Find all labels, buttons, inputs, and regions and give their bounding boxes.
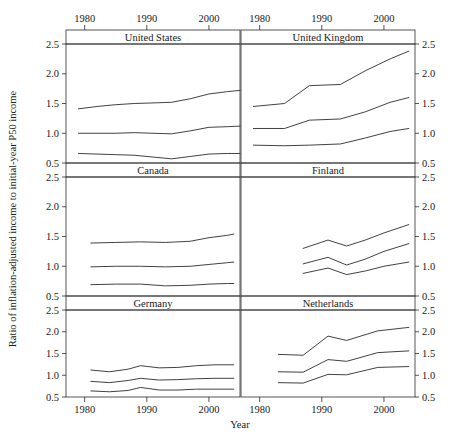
y-tick-label: 0.5 xyxy=(422,392,435,403)
y-tick-label: 1.5 xyxy=(46,348,59,359)
y-tick-label: 2.0 xyxy=(422,326,435,337)
panel-strip-label: Canada xyxy=(137,165,169,176)
y-tick-label: 0.5 xyxy=(46,291,59,302)
panel-strip-label: Finland xyxy=(312,165,345,176)
x-tick-label: 1980 xyxy=(249,404,270,415)
x-tick-label: 2000 xyxy=(198,13,219,24)
y-tick-label: 2.0 xyxy=(46,326,59,337)
x-tick-label: 1990 xyxy=(311,404,332,415)
y-tick-label: 1.0 xyxy=(46,261,59,272)
x-tick-label: 1980 xyxy=(249,13,270,24)
y-tick-label: 0.5 xyxy=(46,158,59,169)
y-tick-label: 2.5 xyxy=(422,39,435,50)
y-tick-label: 1.0 xyxy=(422,261,435,272)
y-tick-label: 1.5 xyxy=(422,348,435,359)
y-tick-label: 2.0 xyxy=(46,201,59,212)
y-tick-label: 1.5 xyxy=(46,98,59,109)
x-tick-label: 2000 xyxy=(198,404,219,415)
x-tick-label: 1980 xyxy=(74,13,95,24)
x-tick-label: 1980 xyxy=(74,404,95,415)
y-tick-label: 0.5 xyxy=(422,291,435,302)
y-tick-label: 1.5 xyxy=(422,98,435,109)
y-tick-label: 1.0 xyxy=(46,128,59,139)
y-tick-label: 2.0 xyxy=(46,68,59,79)
y-tick-label: 2.5 xyxy=(422,172,435,183)
y-tick-label: 2.5 xyxy=(422,305,435,316)
y-tick-label: 2.0 xyxy=(422,68,435,79)
panel-strip-label: United States xyxy=(125,32,181,43)
y-tick-label: 1.0 xyxy=(422,370,435,381)
x-tick-label: 1990 xyxy=(136,13,157,24)
chart-background xyxy=(0,0,466,438)
panel-strip-label: United Kingdom xyxy=(293,32,364,43)
panel-strip-label: Germany xyxy=(133,298,173,309)
x-axis-title: Year xyxy=(230,419,250,430)
y-tick-label: 1.0 xyxy=(46,370,59,381)
y-tick-label: 2.5 xyxy=(46,305,59,316)
y-axis-title: Ratio of inflation-adjusted income to in… xyxy=(7,91,18,348)
y-tick-label: 2.0 xyxy=(422,201,435,212)
x-tick-label: 1990 xyxy=(136,404,157,415)
chart-canvas: United StatesUnited KingdomCanadaFinland… xyxy=(0,0,466,438)
y-tick-label: 1.5 xyxy=(422,231,435,242)
y-tick-label: 0.5 xyxy=(422,158,435,169)
y-tick-label: 2.5 xyxy=(46,39,59,50)
y-tick-label: 2.5 xyxy=(46,172,59,183)
trellis-chart-figure: United StatesUnited KingdomCanadaFinland… xyxy=(0,0,466,438)
y-tick-label: 1.5 xyxy=(46,231,59,242)
x-tick-label: 1990 xyxy=(311,13,332,24)
panel-strip-label: Netherlands xyxy=(303,298,354,309)
x-tick-label: 2000 xyxy=(373,404,394,415)
y-tick-label: 1.0 xyxy=(422,128,435,139)
x-tick-label: 2000 xyxy=(373,13,394,24)
y-tick-label: 0.5 xyxy=(46,392,59,403)
